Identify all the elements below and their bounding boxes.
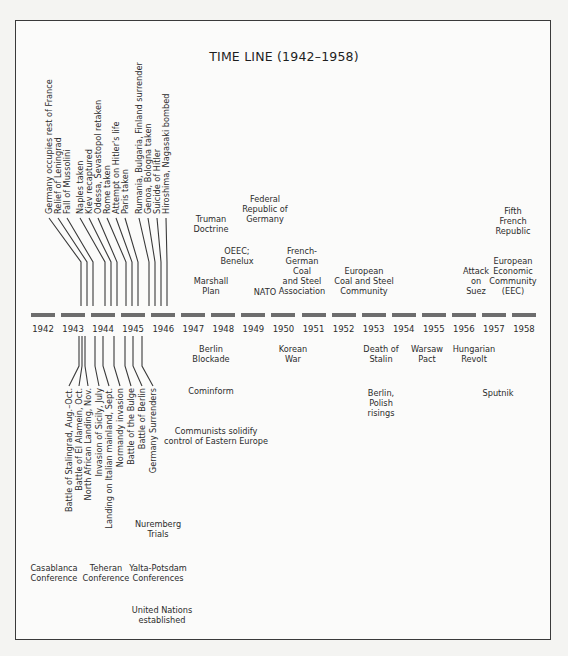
year-dash xyxy=(452,313,476,317)
year-label: 1953 xyxy=(363,324,385,334)
event-label: NATO xyxy=(254,287,277,297)
event-label-vertical: Invasion of Sicily, July xyxy=(95,388,104,477)
event-label-vertical: Battle of Stalingrad, Aug.–Oct. xyxy=(65,388,74,512)
event-label: Attack on Suez xyxy=(463,266,489,296)
year-label: 1945 xyxy=(122,324,144,334)
event-label-vertical: Germany Surrenders xyxy=(149,388,158,473)
event-label: Yalta-Potsdam Conferences xyxy=(129,563,187,583)
year-dash xyxy=(512,313,536,317)
event-label-vertical: Landing on Italian mainland, Sept. xyxy=(105,388,114,529)
year-label: 1942 xyxy=(32,324,54,334)
year-dash xyxy=(61,313,85,317)
event-label-vertical: Battle of the Bulge xyxy=(127,388,136,465)
event-label: Berlin Blockade xyxy=(192,344,229,364)
event-label: Fifth French Republic xyxy=(496,206,531,236)
year-dash xyxy=(392,313,416,317)
event-label-vertical: Normandy invasion xyxy=(116,388,125,467)
event-label: Nuremberg Trials xyxy=(135,519,181,539)
year-dash xyxy=(31,313,55,317)
event-label-vertical: Paris taken xyxy=(121,169,130,214)
event-label-vertical: Fall of Mussolini xyxy=(63,150,72,214)
year-dash xyxy=(211,313,235,317)
year-label: 1950 xyxy=(273,324,295,334)
event-label: Federal Republic of Germany xyxy=(242,194,288,224)
year-label: 1955 xyxy=(423,324,445,334)
year-label: 1951 xyxy=(303,324,325,334)
event-label-vertical: Hiroshima, Nagasaki bombed xyxy=(162,94,171,214)
event-label: Berlin, Polish risings xyxy=(368,388,395,418)
year-label: 1958 xyxy=(513,324,535,334)
event-label: United Nations established xyxy=(132,605,193,625)
event-label: European Coal and Steel Community xyxy=(334,266,393,296)
event-label: French- German Coal and Steel Associatio… xyxy=(279,246,326,296)
event-label: Korean War xyxy=(279,344,307,364)
year-dash xyxy=(181,313,205,317)
year-dash xyxy=(271,313,295,317)
year-label: 1946 xyxy=(152,324,174,334)
event-label: Warsaw Pact xyxy=(411,344,443,364)
year-dash xyxy=(332,313,356,317)
event-label: Marshall Plan xyxy=(194,276,228,296)
event-label: Truman Doctrine xyxy=(194,214,229,234)
year-label: 1947 xyxy=(182,324,204,334)
event-label: Communists solidify control of Eastern E… xyxy=(164,426,268,446)
event-label: Cominform xyxy=(188,386,233,396)
event-label: Sputnik xyxy=(483,388,514,398)
year-label: 1956 xyxy=(453,324,475,334)
year-dash xyxy=(482,313,506,317)
year-dash xyxy=(422,313,446,317)
year-dash xyxy=(302,313,326,317)
year-dash xyxy=(362,313,386,317)
event-label-vertical: Battle of Berlin xyxy=(138,388,147,449)
year-dash xyxy=(121,313,145,317)
event-label: Casablanca Conference xyxy=(30,563,77,583)
year-label: 1954 xyxy=(393,324,415,334)
event-label: Teheran Conference xyxy=(83,563,130,583)
year-label: 1952 xyxy=(333,324,355,334)
year-label: 1957 xyxy=(483,324,505,334)
event-label: European Economic Community (EEC) xyxy=(489,256,536,296)
event-label-vertical: North African Landing, Nov. xyxy=(84,388,93,500)
event-label: Hungarian Revolt xyxy=(453,344,496,364)
year-label: 1949 xyxy=(243,324,265,334)
event-label: Death of Stalin xyxy=(363,344,398,364)
year-dash xyxy=(91,313,115,317)
year-label: 1948 xyxy=(213,324,235,334)
year-label: 1944 xyxy=(92,324,114,334)
year-dash xyxy=(241,313,265,317)
year-label: 1943 xyxy=(62,324,84,334)
year-dash xyxy=(151,313,175,317)
event-label: OEEC; Benelux xyxy=(220,246,253,266)
